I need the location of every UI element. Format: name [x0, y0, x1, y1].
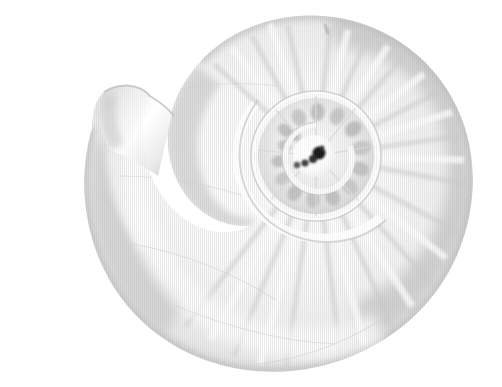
image-canvas: Grayscale photograph of a sectioned naut… [0, 0, 502, 387]
nautilus-shell-image [0, 0, 502, 387]
